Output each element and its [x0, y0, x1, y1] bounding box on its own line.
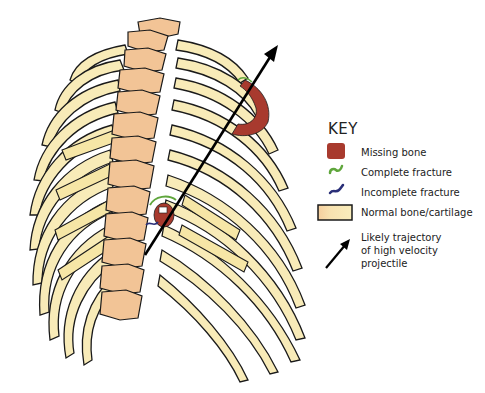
key-label-trajectory-line2: of high velocity	[361, 245, 438, 257]
legend-arrow-icon	[326, 239, 350, 268]
key-title: KEY	[328, 120, 358, 138]
key-label-incomplete-fracture: Incomplete fracture	[361, 187, 460, 199]
key-label-missing-bone: Missing bone	[361, 147, 426, 159]
incomplete-fracture-swatch-icon	[330, 185, 343, 193]
complete-fracture-swatch-icon	[330, 166, 342, 173]
key-label-normal-bone: Normal bone/cartilage	[361, 207, 473, 219]
right-ribs	[158, 40, 305, 382]
key-label-trajectory-line3: projectile	[361, 258, 407, 270]
normal-bone-swatch-icon	[318, 205, 352, 220]
key-label-trajectory-line1: Likely trajectory	[361, 232, 441, 244]
missing-bone-swatch-icon	[327, 143, 345, 159]
key-label-complete-fracture: Complete fracture	[361, 167, 452, 179]
